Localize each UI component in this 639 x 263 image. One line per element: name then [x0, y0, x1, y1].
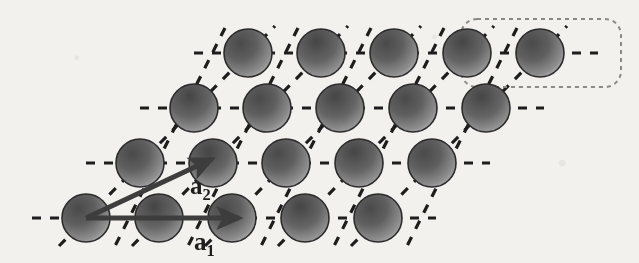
lattice-atom — [281, 194, 329, 242]
lattice-atom — [316, 84, 364, 132]
lattice-atom-basis — [443, 29, 491, 77]
lattice-atom — [335, 139, 383, 187]
lattice-atom — [243, 84, 291, 132]
lattice-diagram-svg: a1 a2 — [0, 0, 639, 263]
lattice-atom — [354, 194, 402, 242]
lattice-atom — [462, 84, 510, 132]
lattice-atom — [389, 84, 437, 132]
lattice-atom — [370, 29, 418, 77]
lattice-atom — [297, 29, 345, 77]
crystal-lattice-figure: a1 a2 — [0, 0, 639, 263]
lattice-atom — [408, 139, 456, 187]
lattice-atom — [262, 139, 310, 187]
lattice-atom — [224, 29, 272, 77]
lattice-atom — [116, 139, 164, 187]
lattice-atom-basis — [516, 29, 564, 77]
lattice-atom — [170, 84, 218, 132]
